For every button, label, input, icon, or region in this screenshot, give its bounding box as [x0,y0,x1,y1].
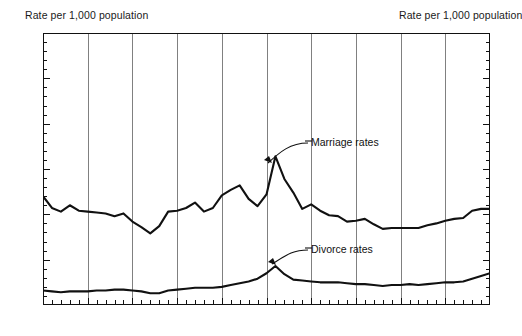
divorce-series-label: Divorce rates [311,243,373,255]
y-axis-left-title: Rate per 1,000 population [25,9,148,21]
plot-area [43,33,490,305]
plot-frame [44,34,490,305]
y-axis-right-title: Rate per 1,000 population [399,9,522,21]
marriage-rate-line [43,156,490,233]
vertical-gridlines [89,33,446,305]
marriage-series-label: Marriage rates [311,136,379,148]
chart-svg [43,33,490,305]
axis-ticks [43,34,490,306]
divorce-rate-line [43,266,490,293]
